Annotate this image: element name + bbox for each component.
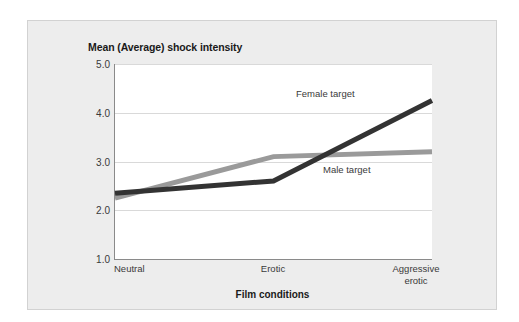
line-female-target [115,101,432,194]
y-tick-label-3: 3.0 [70,156,110,167]
x-axis-title: Film conditions [114,289,431,300]
series-label-female-target: Female target [296,88,355,99]
x-tick-label-neutral: Neutral [114,263,184,275]
chart-card: Mean (Average) shock intensity 5.0 4.0 3… [27,20,497,310]
x-tick-label-aggressive-erotic: Aggressive erotic [376,263,456,286]
y-axis-tick-labels: 5.0 4.0 3.0 2.0 1.0 [70,64,110,259]
y-tick-label-5: 5.0 [70,59,110,70]
page-root: Mean (Average) shock intensity 5.0 4.0 3… [0,0,519,322]
y-tick-label-4: 4.0 [70,107,110,118]
y-tick-label-2: 2.0 [70,205,110,216]
y-tick-label-1: 1.0 [70,254,110,265]
series-label-male-target: Male target [323,164,371,175]
plot-area [114,64,432,260]
x-tick-label-erotic: Erotic [238,263,308,275]
chart-title: Mean (Average) shock intensity [88,41,242,53]
series-lines [115,64,432,259]
